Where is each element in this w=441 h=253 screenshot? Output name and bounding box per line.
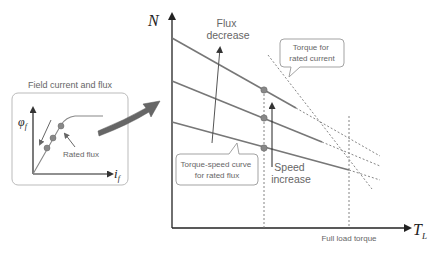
inset-panel: Field current and flux φf if Rated flux: [12, 80, 128, 185]
torque-speed-curve-weak-flux-1: [172, 81, 322, 142]
torque-speed-curve-weak-flux-2: [172, 38, 296, 108]
curve-extension-mid: [322, 142, 380, 166]
inset-title: Field current and flux: [28, 80, 113, 90]
curve-extension-bottom: [349, 170, 380, 180]
n-axis-label: N: [147, 12, 160, 29]
callout-rated-flux-curve: Torque-speed curve for rated flux: [176, 143, 258, 185]
rated-flux-label: Rated flux: [63, 150, 99, 159]
main-chart: N TL Flux decrease Speed increase: [147, 12, 427, 243]
tl-axis-label: TL: [413, 221, 427, 241]
operating-point-mid: [261, 115, 267, 121]
operating-point-top: [261, 87, 267, 93]
diagram-canvas: Field current and flux φf if Rated flux …: [0, 0, 441, 253]
flux-point-low: [44, 145, 50, 151]
inset-box: [12, 93, 128, 185]
flux-point-mid: [50, 135, 56, 141]
callout-rated-current: Torque for rated current: [280, 39, 344, 77]
full-load-torque-label: Full load torque: [321, 234, 377, 243]
operating-point-rated: [261, 145, 267, 151]
speed-increase-label: Speed increase: [271, 161, 311, 185]
flux-decrease-label: Flux decrease: [206, 17, 249, 41]
flux-point-rated: [58, 123, 64, 129]
